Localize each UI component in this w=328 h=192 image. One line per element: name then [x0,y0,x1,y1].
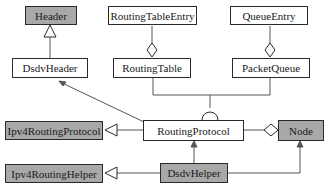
class-label: DsdvHelper [167,167,220,179]
edge-routingprotocol-dsdvheader [60,82,144,122]
class-label: RoutingTableEntry [110,10,194,22]
class-dsdvheader[interactable]: DsdvHeader [12,58,88,78]
edge-dsdvhelper-node [228,144,300,173]
class-queueentry[interactable]: QueueEntry [230,6,308,25]
arrow-head-icon [297,141,303,147]
class-label: Header [35,10,67,22]
arrow-head-icon [191,141,197,147]
arrow-head-icon [59,81,66,86]
class-routingtableentry[interactable]: RoutingTableEntry [108,6,197,25]
class-routingprotocol[interactable]: RoutingProtocol [143,120,244,141]
class-label: DsdvHeader [23,62,78,74]
class-label: Node [289,125,313,137]
aggregation-diamond-icon [147,43,157,57]
required-interface-socket-icon [202,112,218,120]
class-label: Ipv4RoutingHelper [11,168,97,180]
class-label: RoutingTable [122,62,182,74]
class-ipv4routingprotocol[interactable]: Ipv4RoutingProtocol [5,121,103,140]
class-header[interactable]: Header [25,6,77,25]
generalization-arrow-icon [105,124,117,136]
class-label: PacketQueue [242,62,300,74]
class-routingtable[interactable]: RoutingTable [113,58,191,78]
class-label: QueueEntry [242,10,295,22]
aggregation-diamond-icon [265,43,275,57]
generalization-arrow-icon [44,25,56,37]
generalization-arrow-icon [105,167,117,179]
class-ipv4routinghelper[interactable]: Ipv4RoutingHelper [5,164,103,183]
aggregation-diamond-icon [264,124,278,136]
class-label: RoutingProtocol [157,125,230,137]
class-dsdvhelper[interactable]: DsdvHelper [160,163,228,183]
class-node[interactable]: Node [278,120,324,141]
class-packetqueue[interactable]: PacketQueue [232,58,310,78]
class-label: Ipv4RoutingProtocol [8,125,101,137]
edge-tables-routingprotocol [153,78,270,95]
